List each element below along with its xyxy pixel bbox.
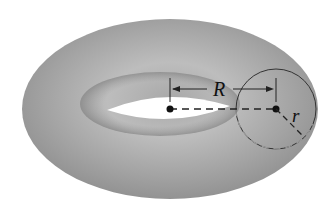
torus-diagram: R r	[0, 0, 334, 204]
torus-center-dot	[167, 106, 174, 113]
label-R: R	[212, 78, 225, 100]
label-r: r	[292, 105, 300, 126]
